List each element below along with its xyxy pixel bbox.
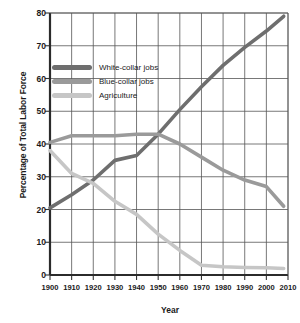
x-axis-title: Year [50, 305, 290, 315]
legend-item-white-collar: White-collar jobs [52, 60, 182, 74]
x-axis-tick-label: 2010 [280, 283, 297, 292]
legend-swatch-blue-collar [52, 79, 92, 84]
y-axis-tick-label: 0 [20, 270, 46, 280]
legend-swatch-white-collar [52, 65, 92, 70]
x-axis-tick-label: 1910 [63, 283, 80, 292]
legend-label-blue-collar: Blue-collar jobs [99, 77, 154, 86]
legend-item-agriculture: Agriculture [52, 88, 182, 102]
x-axis-tick-label: 1950 [150, 283, 167, 292]
x-axis-tick-label: 1960 [171, 283, 188, 292]
y-axis-tick-label: 10 [20, 237, 46, 247]
chart-figure: 01020304050607080 1900191019201930194019… [0, 0, 300, 323]
x-axis-tick-label: 1980 [215, 283, 232, 292]
x-axis-tick-label: 1930 [106, 283, 123, 292]
x-axis-tick-label: 1970 [193, 283, 210, 292]
series-line-blue-collar [50, 134, 284, 206]
x-axis-tick-label: 1920 [85, 283, 102, 292]
x-axis-tick-label: 1900 [42, 283, 59, 292]
y-axis-tick-label: 80 [20, 8, 46, 18]
legend-label-white-collar: White-collar jobs [99, 63, 158, 72]
legend-label-agriculture: Agriculture [99, 91, 137, 100]
x-axis-tick-label: 1990 [236, 283, 253, 292]
x-axis-tick-label: 1940 [128, 283, 145, 292]
chart-legend: White-collar jobs Blue-collar jobs Agric… [52, 60, 182, 102]
y-axis-title: Percentage of Total Labor Force [18, 35, 28, 235]
legend-swatch-agriculture [52, 93, 92, 98]
x-axis-tick-label: 2000 [258, 283, 275, 292]
legend-item-blue-collar: Blue-collar jobs [52, 74, 182, 88]
